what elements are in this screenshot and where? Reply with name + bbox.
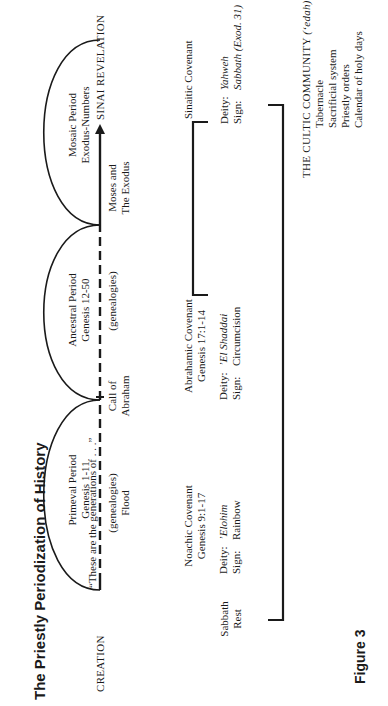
covenant-noachic: Noachic Covenant Genesis 9:1-17 Deity:’E… [182, 478, 243, 574]
community-items: Tabernacle Sacrificial system Priestly o… [313, 31, 365, 128]
sinai-revelation-label: SINAI REVELATION [94, 15, 107, 120]
sabbath-line: Rest [231, 596, 244, 642]
generations-formula: “These are the generations of . . .” [86, 438, 99, 588]
event-line: Moses and [106, 148, 119, 228]
covenant-ref: Genesis 17:1-14 [195, 292, 208, 400]
event-line: Call of [106, 358, 119, 434]
community-item: Calendar of holy days [352, 31, 365, 128]
covenant-abrahamic: Abrahamic Covenant Genesis 17:1-14 Deity… [182, 292, 243, 400]
deity-label: Deity: [218, 90, 231, 124]
sabbath-line: Sabbath [218, 596, 231, 642]
community-item: Tabernacle [313, 31, 326, 128]
bracket-sabbath-community [268, 105, 283, 620]
bracket-abraham-sinai [193, 122, 208, 295]
deity-label: Deity: [217, 540, 230, 574]
event-flood: (genealogies) Flood [106, 458, 132, 548]
covenant-name: Noachic Covenant [182, 478, 195, 574]
event-line: (genealogies) [106, 256, 119, 346]
covenant-ref: Genesis 9:1-17 [195, 478, 208, 574]
sabbath-rest: Sabbath Rest [218, 596, 244, 642]
deity-value: ’Elohim [217, 505, 230, 540]
page-title: The Priestly Periodization of History [31, 442, 48, 700]
sign-label: Sign: [230, 540, 243, 574]
sign-value: Sabbath (Exod. 31) [231, 5, 244, 90]
event-line: The Exodus [119, 148, 132, 228]
event-line: Flood [119, 458, 132, 548]
sign-value: Rainbow [230, 500, 243, 540]
period-ref: Exodus-Numbers [79, 50, 92, 200]
covenant-sinaitic: Sinaitic Covenant [182, 40, 195, 119]
covenant-name: Abrahamic Covenant [182, 292, 195, 400]
deity-value: ’El Shaddai [217, 314, 230, 366]
cultic-community: THE CULTIC COMMUNITY (‘edah) [300, 0, 313, 178]
event-call-of-abraham: Call of Abraham [106, 358, 132, 434]
event-line: Abraham [119, 358, 132, 434]
figure-label: Figure 3 [352, 630, 368, 684]
period-mosaic: Mosaic Period Exodus-Numbers [66, 50, 92, 200]
event-moses-exodus: Moses and The Exodus [106, 148, 132, 228]
sign-label: Sign: [230, 366, 243, 400]
period-name: Primeval Period [66, 420, 79, 560]
covenant-sinaitic-details: Deity:Yahweh Sign:Sabbath (Exod. 31) [218, 5, 244, 124]
period-ref: Genesis 12-50 [79, 240, 92, 380]
period-name: Ancestral Period [66, 240, 79, 380]
community-term: (‘edah) [300, 0, 312, 34]
creation-label: CREATION [94, 635, 107, 692]
community-item: Sacrificial system [326, 31, 339, 128]
figure-page: The Priestly Periodization of History Pr… [0, 0, 388, 706]
period-ancestral: Ancestral Period Genesis 12-50 [66, 240, 92, 380]
period-name: Mosaic Period [66, 50, 79, 200]
deity-value: Yahweh [218, 56, 231, 90]
event-line: (genealogies) [106, 458, 119, 548]
community-item: Priestly orders [339, 31, 352, 128]
arrow-head-icon [95, 124, 105, 134]
sign-value: Circumcision [230, 307, 243, 366]
deity-label: Deity: [217, 366, 230, 400]
community-heading: THE CULTIC COMMUNITY [300, 38, 312, 178]
sign-label: Sign: [231, 90, 244, 124]
event-genealogies: (genealogies) [106, 256, 119, 346]
covenant-name: Sinaitic Covenant [182, 40, 195, 119]
